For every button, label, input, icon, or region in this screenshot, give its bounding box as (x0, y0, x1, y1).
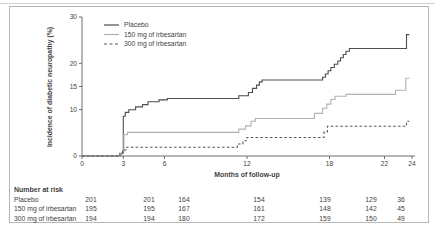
legend-label: 150 mg of irbesartan (124, 31, 187, 39)
risk-value: 161 (253, 205, 265, 212)
y-tick-label: 20 (70, 60, 78, 67)
y-tick-label: 10 (70, 106, 78, 113)
x-tick-label: 18 (326, 160, 334, 167)
legend-label: Placebo (124, 21, 149, 28)
risk-value: 36 (397, 196, 405, 203)
risk-value: 164 (178, 196, 190, 203)
figure-border (10, 7, 429, 223)
risk-value: 195 (85, 205, 97, 212)
risk-value: 142 (365, 205, 377, 212)
risk-value: 194 (85, 215, 97, 222)
y-tick-label: 30 (70, 13, 78, 20)
risk-value: 154 (253, 196, 265, 203)
x-tick-label: 12 (243, 160, 251, 167)
risk-value: 194 (143, 215, 155, 222)
x-tick-label: 6 (163, 160, 167, 167)
risk-value: 150 (365, 215, 377, 222)
x-axis-title: Months of follow-up (214, 171, 279, 179)
risk-value: 195 (143, 205, 155, 212)
risk-row-label: Placebo (14, 196, 39, 203)
x-tick-label: 0 (80, 160, 84, 167)
risk-value: 139 (319, 196, 331, 203)
risk-row-label: 150 mg of irbesartan (14, 205, 77, 213)
x-tick-label: 22 (381, 160, 389, 167)
risk-value: 180 (178, 215, 190, 222)
risk-value: 45 (397, 205, 405, 212)
y-tick-label: 15 (70, 83, 78, 90)
risk-value: 49 (397, 215, 405, 222)
legend-label: 300 mg of irbesartan (124, 40, 187, 48)
y-axis-title: Incidence of diabetic neuropathy (%) (46, 27, 54, 147)
x-tick-label: 3 (121, 160, 125, 167)
risk-value: 167 (178, 205, 190, 212)
risk-row-label: 300 mg of irbesartan (14, 215, 77, 223)
risk-value: 201 (143, 196, 155, 203)
km-figure: 03612182224010152030 Incidence of diabet… (0, 0, 435, 233)
risk-value: 172 (253, 215, 265, 222)
risk-value: 148 (319, 205, 331, 212)
y-tick-label: 0 (73, 152, 77, 159)
risk-value: 129 (365, 196, 377, 203)
risk-value: 201 (85, 196, 97, 203)
x-tick-label: 24 (408, 160, 416, 167)
number-at-risk-title: Number at risk (14, 186, 63, 193)
risk-value: 159 (319, 215, 331, 222)
